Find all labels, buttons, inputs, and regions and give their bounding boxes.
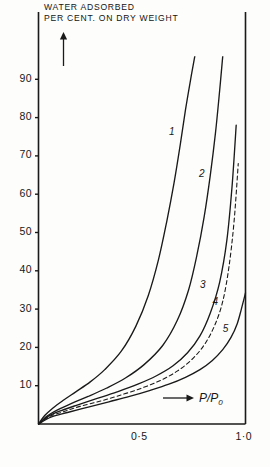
y-tick-label-80: 80 bbox=[6, 110, 32, 122]
curve-3 bbox=[39, 125, 237, 424]
curve-label-4: 4 bbox=[212, 296, 218, 307]
y-tick-label-50: 50 bbox=[6, 225, 32, 237]
figure-container: WATER ADSORBED PER CENT. ON DRY WEIGHT 1… bbox=[0, 0, 270, 467]
x-axis-label: P/P0 bbox=[199, 391, 223, 407]
x-axis-label-text: P/P bbox=[199, 391, 218, 405]
y-tick-label-20: 20 bbox=[6, 340, 32, 352]
curve-2 bbox=[39, 56, 223, 424]
y-tick-label-70: 70 bbox=[6, 148, 32, 160]
curve-label-3: 3 bbox=[200, 279, 206, 290]
curve-label-2: 2 bbox=[199, 168, 205, 179]
curve-1 bbox=[39, 56, 195, 424]
y-tick-label-90: 90 bbox=[6, 72, 32, 84]
curve-label-5: 5 bbox=[223, 323, 229, 334]
x-tick-label-0-5: 0·5 bbox=[131, 430, 148, 442]
y-tick-label-30: 30 bbox=[6, 302, 32, 314]
y-tick-label-10: 10 bbox=[6, 378, 32, 390]
curve-4 bbox=[39, 164, 239, 424]
curves-group bbox=[39, 56, 246, 424]
chart-plot-area bbox=[0, 0, 270, 467]
x-tick-label-1: 1·0 bbox=[236, 430, 253, 442]
y-tick-label-40: 40 bbox=[6, 263, 32, 275]
y-tick-label-60: 60 bbox=[6, 187, 32, 199]
arrows-group bbox=[60, 32, 194, 402]
axes-group bbox=[35, 12, 246, 424]
x-axis-label-subscript: 0 bbox=[218, 398, 222, 407]
curve-label-1: 1 bbox=[169, 126, 175, 137]
